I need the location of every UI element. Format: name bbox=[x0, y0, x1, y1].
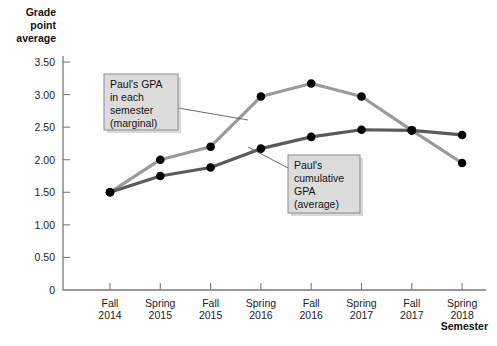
data-point-marker bbox=[206, 163, 215, 172]
annotation-leader-line bbox=[248, 147, 288, 168]
data-point-marker bbox=[307, 79, 316, 88]
y-tick-label: 3.00 bbox=[35, 89, 56, 101]
y-axis-title-line: Grade bbox=[26, 6, 57, 18]
data-point-marker bbox=[307, 133, 316, 142]
annotation-text-line: (average) bbox=[294, 198, 339, 210]
annotation-text-line: semester bbox=[110, 104, 154, 116]
y-tick-label: 3.50 bbox=[35, 56, 56, 68]
annotation-text-line: Paul's GPA bbox=[110, 78, 163, 90]
y-tick-label: 0.50 bbox=[35, 251, 56, 263]
data-point-marker bbox=[106, 188, 115, 197]
y-tick-label: 1.50 bbox=[35, 186, 56, 198]
chart-figure: Gradepointaverage 00.501.001.502.002.503… bbox=[0, 0, 497, 346]
annotation-text-line: (marginal) bbox=[110, 117, 157, 129]
x-tick-label: 2015 bbox=[199, 309, 223, 321]
annotation-text-line: GPA bbox=[294, 185, 315, 197]
x-tick-label: Fall bbox=[102, 297, 119, 309]
data-point-marker bbox=[458, 131, 467, 140]
gpa-line-chart: Gradepointaverage 00.501.001.502.002.503… bbox=[0, 0, 497, 346]
x-tick-label: 2017 bbox=[400, 309, 424, 321]
annotation-text-line: Paul's bbox=[294, 159, 322, 171]
y-axis-title: Gradepointaverage bbox=[16, 6, 56, 44]
x-tick-label: 2015 bbox=[149, 309, 173, 321]
x-tick-label: Spring bbox=[246, 297, 277, 309]
data-point-marker bbox=[357, 125, 366, 134]
x-tick-label: 2016 bbox=[300, 309, 324, 321]
x-axis-tick-labels: Fall2014Spring2015Fall2015Spring2016Fall… bbox=[98, 297, 477, 321]
data-point-marker bbox=[458, 159, 467, 168]
x-tick-label: Spring bbox=[447, 297, 478, 309]
annotation-leader-line bbox=[178, 108, 248, 120]
x-axis-title: Semester bbox=[441, 320, 488, 332]
data-point-marker bbox=[408, 126, 417, 135]
chart-annotations: Paul's GPAin eachsemester(marginal)Paul'… bbox=[104, 74, 363, 216]
x-tick-label: Spring bbox=[145, 297, 176, 309]
y-axis-tick-labels: 00.501.001.502.002.503.003.50 bbox=[35, 56, 56, 296]
x-tick-label: 2014 bbox=[98, 309, 122, 321]
y-tick-label: 1.00 bbox=[35, 219, 56, 231]
y-tick-label: 2.50 bbox=[35, 121, 56, 133]
x-tick-label: Fall bbox=[403, 297, 420, 309]
y-axis-title-line: point bbox=[30, 19, 56, 31]
annotation-text-line: cumulative bbox=[294, 172, 344, 184]
y-tick-label: 2.00 bbox=[35, 154, 56, 166]
x-tick-label: 2016 bbox=[249, 309, 273, 321]
data-point-marker bbox=[156, 155, 165, 164]
data-point-marker bbox=[257, 144, 266, 153]
x-tick-label: Fall bbox=[202, 297, 219, 309]
data-point-marker bbox=[206, 142, 215, 151]
x-tick-label: Spring bbox=[346, 297, 377, 309]
data-point-marker bbox=[357, 92, 366, 101]
data-point-marker bbox=[156, 172, 165, 181]
x-tick-label: Fall bbox=[303, 297, 320, 309]
data-point-marker bbox=[257, 92, 266, 101]
x-tick-label: 2017 bbox=[350, 309, 374, 321]
y-tick-label: 0 bbox=[49, 284, 55, 296]
annotation-text-line: in each bbox=[110, 91, 144, 103]
y-axis-title-line: average bbox=[16, 32, 56, 44]
